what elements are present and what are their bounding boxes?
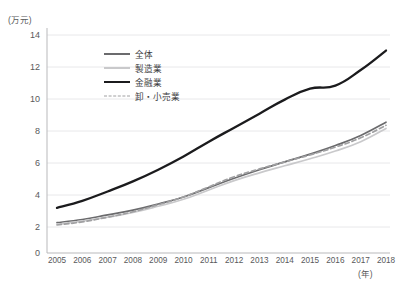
x-axis-tick-2014: 2014 — [272, 256, 298, 265]
x-axis-tick-2013: 2013 — [246, 256, 272, 265]
x-axis-tick-2018: 2018 — [373, 256, 399, 265]
chart-legend: 全体 製造業 金融業 卸・小売業 — [104, 47, 180, 103]
x-axis-tick-2016: 2016 — [322, 256, 348, 265]
x-axis-tick-2005: 2005 — [44, 256, 70, 265]
legend-label-zentai: 全体 — [135, 48, 153, 60]
legend-item-seizougyou: 製造業 — [104, 61, 180, 75]
legend-label-seizougyou: 製造業 — [135, 62, 162, 74]
legend-item-oroshi-kouri: 卸・小売業 — [104, 89, 180, 103]
x-axis-tick-2012: 2012 — [221, 256, 247, 265]
x-axis-unit-label: (年) — [358, 267, 373, 279]
legend-swatch-line-icon — [104, 77, 130, 87]
x-axis-tick-2015: 2015 — [297, 256, 323, 265]
gridlines — [47, 35, 390, 227]
series-line-製造業 — [57, 128, 386, 224]
x-axis-tick-2017: 2017 — [348, 256, 374, 265]
x-axis-tick-2010: 2010 — [171, 256, 197, 265]
x-axis-tick-2007: 2007 — [95, 256, 121, 265]
legend-item-zentai: 全体 — [104, 47, 180, 61]
x-axis-tick-2008: 2008 — [120, 256, 146, 265]
legend-label-kinyuugyou: 金融業 — [135, 76, 162, 88]
x-axis-tick-2006: 2006 — [69, 256, 95, 265]
x-axis-tick-2009: 2009 — [145, 256, 171, 265]
series-line-卸・小売業 — [57, 125, 386, 225]
legend-item-kinyuugyou: 金融業 — [104, 75, 180, 89]
legend-swatch-line-icon — [104, 49, 130, 59]
legend-swatch-dashed-line-icon — [104, 91, 130, 101]
series-line-全体 — [57, 122, 386, 222]
x-axis-tick-2011: 2011 — [196, 256, 222, 265]
line-chart: (万元) 14 12 10 8 6 4 2 0 全体 製造業 金融業 — [0, 0, 404, 289]
legend-swatch-line-icon — [104, 63, 130, 73]
legend-label-oroshi-kouri: 卸・小売業 — [135, 90, 180, 102]
chart-canvas — [0, 0, 404, 289]
